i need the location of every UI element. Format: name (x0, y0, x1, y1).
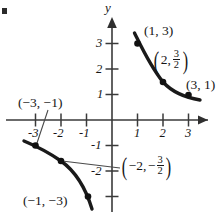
minus-sign: − (148, 159, 156, 173)
x-tick-label-1: 1 (134, 127, 140, 140)
point-label-2-3over2: ( 2, 3 2 ) (152, 49, 189, 71)
x-tick-label-neg3: -3 (28, 127, 38, 140)
y-tick-label-neg1: -1 (91, 139, 101, 152)
coordinate-plane (0, 0, 221, 222)
fraction-3-over-2: 3 2 (173, 49, 180, 71)
left-paren: ( (154, 50, 159, 71)
y-tick-label-2: 2 (96, 63, 102, 76)
graph-figure: y -3 -2 -1 1 2 3 3 2 1 -1 -2 (1, 3) ( 2,… (0, 0, 221, 222)
point-neg1-neg3 (85, 193, 92, 200)
y-tick-label-neg2: -2 (91, 165, 101, 178)
left-paren: ( (122, 156, 127, 177)
y-axis-arrow (107, 17, 117, 28)
point-label-3-1: (3, 1) (186, 78, 215, 92)
fraction-numerator: 3 (157, 155, 164, 166)
point-label-1-3: (1, 3) (144, 24, 173, 38)
right-paren: ) (182, 50, 187, 71)
right-paren: ) (166, 156, 171, 177)
y-tick-label-1: 1 (97, 88, 103, 101)
y-tick-label-3: 3 (96, 37, 102, 50)
point-2-3over2 (160, 79, 167, 86)
fraction-denominator: 2 (173, 59, 180, 71)
point-3-1 (185, 92, 192, 99)
y-axis-label: y (105, 1, 111, 14)
point-neg3-neg1 (32, 142, 39, 149)
point-x-value: 2, (161, 53, 171, 67)
point-1-3 (134, 40, 141, 47)
point-label-neg2-neg3over2: ( −2, − 3 2 ) (120, 155, 173, 177)
fraction-group-neg2-neg3over2: ( −2, − 3 2 ) (120, 155, 173, 177)
x-axis-arrow (198, 116, 208, 125)
x-tick-label-neg1: -1 (79, 127, 89, 140)
fraction-denominator: 2 (157, 165, 164, 177)
x-tick-label-neg2: -2 (53, 127, 63, 140)
point-neg2-neg3over2 (58, 158, 65, 165)
point-label-neg3-neg1: (−3, −1) (18, 96, 62, 110)
x-tick-label-2: 2 (160, 127, 166, 140)
x-tick-label-3: 3 (185, 127, 191, 140)
point-label-neg1-neg3: (−1, −3) (23, 194, 67, 208)
fraction-group-2-3over2: ( 2, 3 2 ) (152, 49, 189, 71)
fraction-numerator: 3 (173, 49, 180, 60)
point-x-value: −2, (129, 159, 147, 173)
fraction-3-over-2: 3 2 (157, 155, 164, 177)
